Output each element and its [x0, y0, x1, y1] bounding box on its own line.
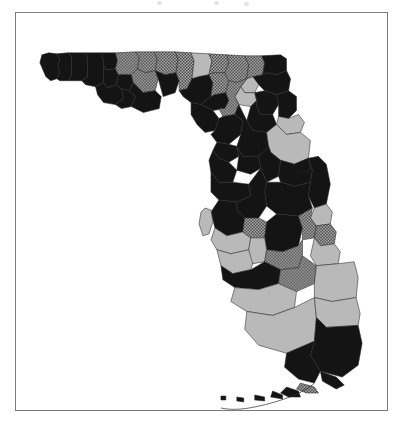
county-leon: [154, 52, 178, 75]
county-santa-rosa: [57, 53, 72, 81]
county-palm-beach: [314, 262, 358, 302]
county-wakulla: [155, 71, 179, 97]
county-pinellas: [199, 208, 213, 236]
scan-artifact: [214, 1, 219, 5]
county-lower-keys: [255, 395, 265, 401]
scan-artifact-group: [0, 0, 402, 11]
county-desoto: [249, 238, 267, 264]
county-brevard: [308, 156, 330, 208]
scan-artifact: [244, 2, 249, 6]
counties-layer: [40, 52, 362, 383]
florida-choropleth-map: [16, 13, 387, 410]
county-columbia: [225, 55, 249, 83]
figure-page: [0, 0, 402, 428]
county-osceola: [265, 182, 313, 216]
county-hardee: [243, 218, 267, 238]
map-frame: [15, 12, 388, 411]
county-dry-tortugas: [221, 396, 226, 400]
county-st-johns: [277, 91, 297, 119]
county-highlands: [265, 214, 303, 252]
county-middle-keys: [271, 391, 283, 399]
florida-keys-layer: [221, 371, 344, 402]
scan-artifact: [157, 1, 162, 5]
county-nassau: [262, 55, 287, 75]
county-escambia: [40, 53, 60, 81]
county-key-west: [237, 397, 244, 402]
